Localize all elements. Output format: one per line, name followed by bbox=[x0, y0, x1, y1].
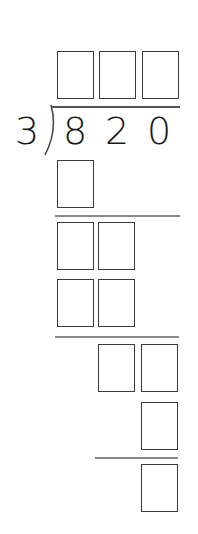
division-bracket-icon bbox=[42, 104, 56, 156]
final-remainder-box[interactable] bbox=[141, 464, 178, 512]
quotient-box-tens[interactable] bbox=[99, 51, 136, 99]
step1-product-box[interactable] bbox=[57, 160, 94, 208]
step3-remainder-box-2[interactable] bbox=[141, 344, 178, 392]
division-bar bbox=[52, 106, 180, 108]
step2-remainder-box-2[interactable] bbox=[98, 222, 135, 270]
step2-product-box-1[interactable] bbox=[57, 279, 94, 327]
dividend-digit-hundreds: 8 bbox=[63, 112, 87, 150]
dividend-digit-tens: 2 bbox=[105, 112, 129, 150]
quotient-box-ones[interactable] bbox=[142, 51, 179, 99]
divisor: 3 bbox=[15, 112, 39, 150]
step3-product-box[interactable] bbox=[141, 402, 178, 450]
quotient-box-hundreds[interactable] bbox=[57, 51, 94, 99]
step3-remainder-box-1[interactable] bbox=[98, 344, 135, 392]
subtraction-line-2 bbox=[55, 336, 179, 338]
dividend-digit-ones: 0 bbox=[147, 112, 171, 150]
step2-product-box-2[interactable] bbox=[98, 279, 135, 327]
subtraction-line-3 bbox=[95, 457, 178, 459]
step2-remainder-box-1[interactable] bbox=[57, 222, 94, 270]
subtraction-line-1 bbox=[55, 215, 180, 217]
